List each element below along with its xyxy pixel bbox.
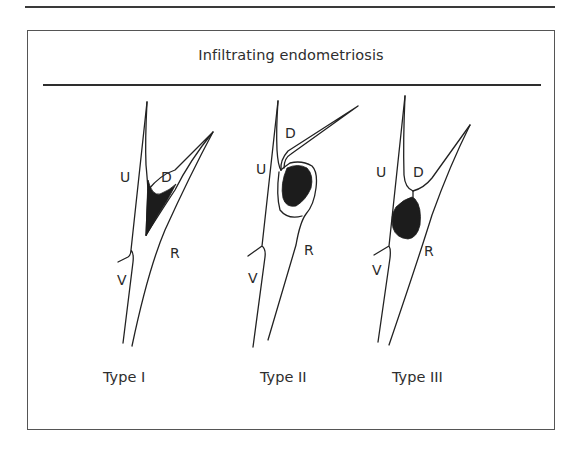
label-vagina: V <box>117 272 127 288</box>
panel-type-3: U D R V <box>372 96 470 345</box>
uterus-posterior-wall <box>277 101 281 170</box>
rectum-posterior-wall <box>132 132 213 346</box>
label-rectum: R <box>424 243 434 259</box>
label-douglas: D <box>285 125 296 141</box>
caption-type-1: Type I <box>103 369 145 385</box>
caption-type-3: Type III <box>392 369 443 385</box>
label-rectum: R <box>170 245 180 261</box>
uterus-vagina-wall <box>248 101 278 347</box>
caption-type-2: Type II <box>260 369 306 385</box>
label-douglas: D <box>161 169 172 185</box>
uterus-posterior-wall <box>404 96 413 191</box>
lesion-type-3 <box>392 197 420 239</box>
label-douglas: D <box>413 164 424 180</box>
label-rectum: R <box>304 242 314 258</box>
rectum-anterior-wall <box>413 125 470 191</box>
panel-type-2: U D R V <box>248 101 358 347</box>
panel-type-1: U D R V <box>117 102 213 346</box>
label-vagina: V <box>248 270 258 286</box>
label-uterus: U <box>256 161 266 177</box>
label-uterus: U <box>120 169 130 185</box>
label-uterus: U <box>376 164 386 180</box>
lesion-type-1 <box>146 180 176 236</box>
rectum-anterior-wall <box>146 132 213 235</box>
lesion-type-2 <box>282 166 312 207</box>
uterus-vagina-wall <box>118 102 147 343</box>
label-vagina: V <box>372 262 382 278</box>
